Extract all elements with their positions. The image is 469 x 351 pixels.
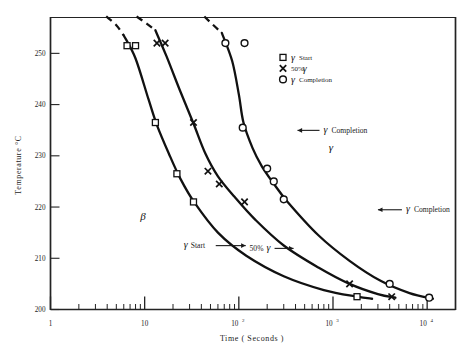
marker-circle bbox=[280, 196, 287, 203]
svg-text:Completion: Completion bbox=[414, 205, 450, 214]
chart-background bbox=[0, 0, 469, 351]
x-axis-title: Time ( Seconds ) bbox=[220, 334, 284, 343]
marker-circle bbox=[241, 40, 248, 47]
y-tick-label: 220 bbox=[35, 204, 46, 212]
marker-square bbox=[280, 54, 286, 60]
marker-circle bbox=[386, 280, 393, 287]
svg-text:50%: 50% bbox=[250, 244, 265, 253]
marker-square bbox=[124, 43, 130, 49]
svg-text:Completion: Completion bbox=[299, 76, 333, 84]
marker-circle bbox=[222, 40, 229, 47]
marker-square bbox=[354, 294, 360, 300]
marker-square bbox=[190, 199, 196, 205]
y-tick-label: 250 bbox=[35, 50, 46, 58]
y-tick-label: 210 bbox=[35, 255, 46, 263]
x-tick-label: 1 bbox=[49, 320, 53, 328]
marker-square bbox=[174, 171, 180, 177]
y-axis-title: Temperature °C bbox=[14, 135, 23, 194]
chart-canvas: 200210220230240250 110102103104 βγγStart… bbox=[0, 0, 469, 351]
marker-circle bbox=[270, 178, 277, 185]
marker-circle bbox=[264, 165, 271, 172]
svg-text:10: 10 bbox=[325, 320, 333, 328]
svg-text:Start: Start bbox=[191, 241, 206, 250]
marker-circle bbox=[426, 294, 433, 301]
y-tick-label: 230 bbox=[35, 152, 46, 160]
svg-text:10: 10 bbox=[420, 320, 428, 328]
marker-circle bbox=[239, 124, 246, 131]
svg-text:Completion: Completion bbox=[332, 126, 368, 135]
marker-circle bbox=[280, 76, 287, 83]
marker-square bbox=[133, 43, 139, 49]
marker-square bbox=[152, 120, 158, 126]
region-label-gamma: γ bbox=[329, 141, 334, 153]
y-tick-label: 240 bbox=[35, 101, 46, 109]
svg-text:10: 10 bbox=[231, 320, 239, 328]
region-label-beta: β bbox=[139, 210, 146, 222]
svg-text:Start: Start bbox=[299, 54, 312, 62]
x-tick-label: 10 bbox=[141, 320, 149, 328]
ttt-diagram-figure: 200210220230240250 110102103104 βγγStart… bbox=[0, 0, 469, 351]
y-tick-label: 200 bbox=[35, 306, 46, 314]
